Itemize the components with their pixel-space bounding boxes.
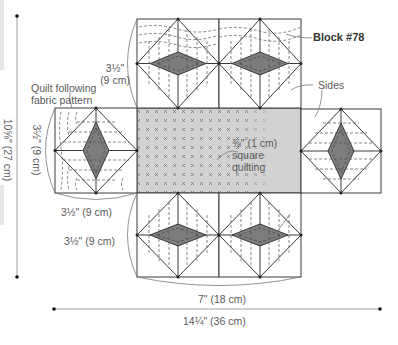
- square-quilting-line2: square: [232, 149, 277, 161]
- square-quilting-label: ⅜" (1 cm) square quilting: [232, 137, 277, 173]
- top-block-left: [136, 18, 221, 110]
- top-block-height-line1: 3½": [95, 62, 135, 74]
- bottom-block-right: [218, 192, 303, 279]
- sides-label: Sides: [318, 79, 344, 91]
- top-block-height-label: 3½" (9 cm): [95, 62, 135, 86]
- bottom-block-height-label: 3½" (9 cm): [64, 235, 115, 247]
- bottom-width-label: 7" (18 cm): [198, 293, 246, 305]
- total-height-label: 10⅝" (27 cm): [2, 112, 14, 188]
- quilt-note-label: Quilt following fabric pattern: [31, 82, 96, 106]
- side-block-left: [54, 107, 139, 195]
- quilt-note-line1: Quilt following: [31, 82, 96, 94]
- left-block-height-label: 3½" (9 cm): [31, 115, 43, 185]
- bottom-block-left: [136, 192, 221, 279]
- quilt-note-line2: fabric pattern: [31, 94, 96, 106]
- square-quilting-line3: quilting: [232, 161, 277, 173]
- side-block-right: [300, 108, 383, 195]
- top-block-height-line2: (9 cm): [95, 74, 135, 86]
- block-name-label: Block #78: [313, 31, 364, 43]
- left-block-width-label: 3½" (9 cm): [61, 206, 112, 218]
- square-quilting-line1: ⅜" (1 cm): [232, 137, 277, 149]
- total-width-label: 14¼" (36 cm): [183, 315, 246, 327]
- top-block-right: [218, 18, 303, 110]
